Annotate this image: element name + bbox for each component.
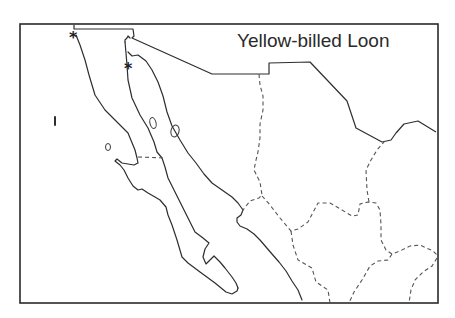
colorado-delta: [125, 36, 130, 42]
state-border-durango-zacatecas: [349, 254, 392, 303]
state-border-coahuila-nl: [409, 258, 437, 303]
map-title: Yellow-billed Loon: [237, 30, 389, 51]
mainland-gulf-coast: [128, 52, 302, 300]
state-border-sinaloa-durango: [291, 231, 330, 303]
state-border-sonora-chihuahua: [243, 74, 263, 210]
island-small: [106, 144, 111, 151]
state-border-chihuahua-coahuila: [366, 141, 385, 202]
record-marker-asterisk: *: [124, 59, 133, 78]
record-marker-asterisk: *: [69, 28, 78, 47]
map-frame: [20, 24, 438, 303]
island-tiburon: [149, 117, 158, 129]
range-map: Yellow-billed Loon * *: [0, 0, 455, 318]
baja-gulf-coast: [125, 42, 238, 288]
state-border-chihuahua-durango: [262, 196, 438, 256]
